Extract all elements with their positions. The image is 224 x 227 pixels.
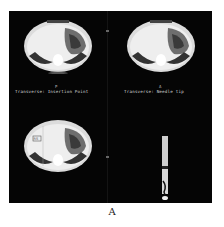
- ct-figure: P Transverse: Insertion Point A Transver…: [9, 11, 212, 203]
- panel-label: Transverse: Insertion Point: [15, 89, 88, 94]
- figure-caption: A: [0, 206, 224, 217]
- panel-insertion-point: P Transverse: Insertion Point: [9, 11, 107, 107]
- ct-scan-image: [126, 16, 196, 74]
- ct-scan-image: RS: [23, 116, 93, 174]
- panel-label: Transverse: Needle tip: [124, 89, 184, 94]
- panel-needle-tip: A Transverse: Needle tip: [108, 11, 212, 107]
- panel-needle-path-axial: RS: [9, 107, 107, 203]
- inset-text: RS: [34, 137, 39, 141]
- needle-path-strip: [161, 136, 169, 203]
- panel-needle-path-strip: [108, 107, 212, 203]
- ct-scan-image: [23, 16, 93, 74]
